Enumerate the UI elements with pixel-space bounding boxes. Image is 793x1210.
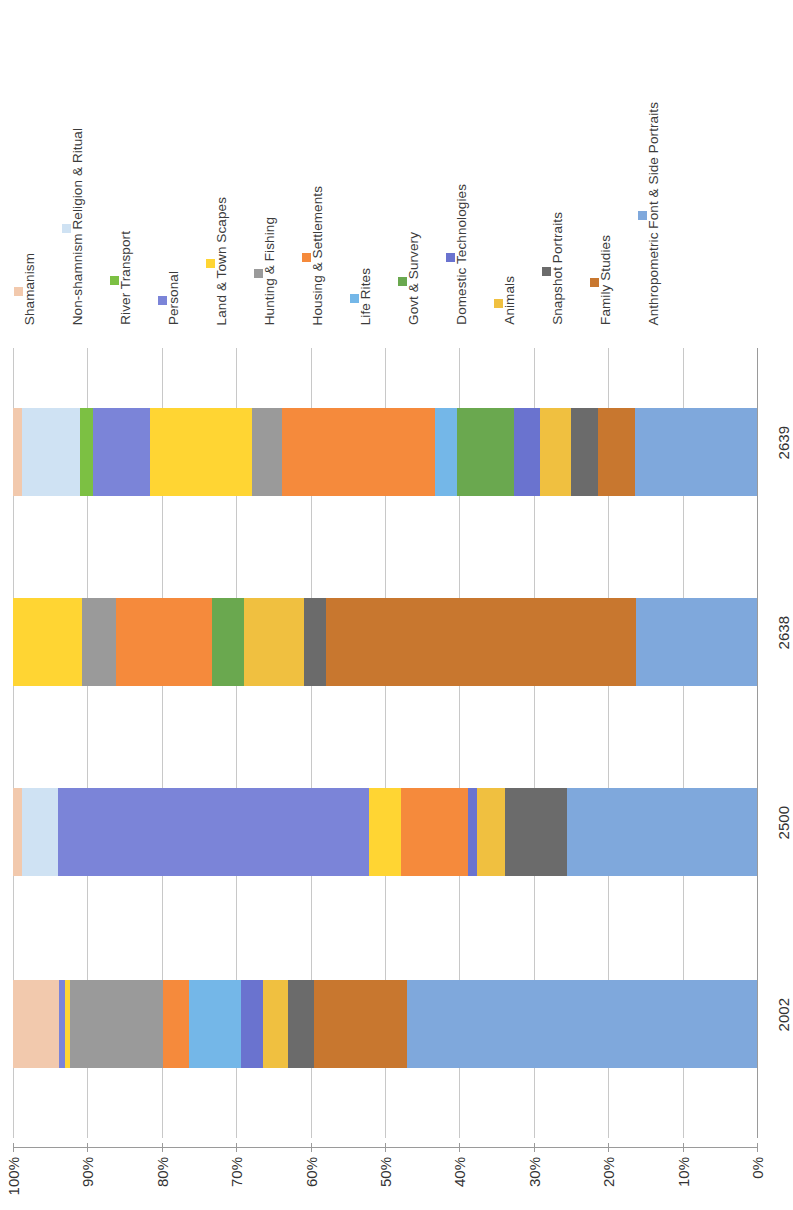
bar-segment[interactable] xyxy=(13,598,82,686)
axis-tick-label: 40% xyxy=(451,1157,468,1187)
bar-segment[interactable] xyxy=(567,788,757,876)
bar-segment[interactable] xyxy=(252,408,282,496)
bar-segment[interactable] xyxy=(241,980,263,1068)
legend-item[interactable]: Anthropometric Font & Side Portraits xyxy=(638,102,661,330)
bar-segment[interactable] xyxy=(401,788,468,876)
bar-segment[interactable] xyxy=(304,598,326,686)
bar-segment[interactable] xyxy=(288,980,313,1068)
bar-segment[interactable] xyxy=(263,980,288,1068)
legend-item[interactable]: Housing & Settlements xyxy=(302,186,325,330)
axis-tick xyxy=(459,1143,460,1152)
axis-tick xyxy=(683,1143,684,1152)
legend-label: Govt & Survery xyxy=(407,232,421,325)
chart-page: ShamanismNon-shamnism Religion & RitualR… xyxy=(0,0,793,1210)
legend-label: Domestic Technologies xyxy=(455,184,469,325)
category-label: 2639 xyxy=(775,426,793,459)
bar-row xyxy=(13,980,757,1068)
legend-item[interactable]: Land & Town Scapes xyxy=(206,197,229,330)
axis-tick xyxy=(757,1143,758,1152)
axis-tick xyxy=(87,1143,88,1152)
legend-label: Snapshot Portraits xyxy=(551,212,565,325)
bar-segment[interactable] xyxy=(13,980,59,1068)
axis-tick-label: 10% xyxy=(675,1157,692,1187)
bar-segment[interactable] xyxy=(635,408,757,496)
axis-tick-label: 90% xyxy=(79,1157,96,1187)
axis-tick xyxy=(13,1143,14,1152)
axis-tick xyxy=(534,1143,535,1152)
legend-label: Non-shamnism Religion & Ritual xyxy=(71,128,85,325)
bar-segment[interactable] xyxy=(58,788,370,876)
bar-segment[interactable] xyxy=(212,598,243,686)
bar-row xyxy=(13,408,757,496)
legend-item[interactable]: Govt & Survery xyxy=(398,232,421,330)
legend-label: River Transport xyxy=(119,231,133,325)
bar-segment[interactable] xyxy=(189,980,240,1068)
legend-item[interactable]: Animals xyxy=(494,276,517,330)
bar-segment[interactable] xyxy=(282,408,435,496)
stacked-bar[interactable] xyxy=(13,598,757,686)
axis-baseline xyxy=(757,348,758,1138)
axis-tick-label: 0% xyxy=(749,1157,766,1179)
chart-legend: ShamanismNon-shamnism Religion & RitualR… xyxy=(0,0,793,330)
bar-segment[interactable] xyxy=(435,408,457,496)
bar-segment[interactable] xyxy=(150,408,252,496)
bar-row xyxy=(13,788,757,876)
bar-segment[interactable] xyxy=(636,598,757,686)
bar-segment[interactable] xyxy=(540,408,571,496)
legend-item[interactable]: Non-shamnism Religion & Ritual xyxy=(62,128,85,330)
legend-item[interactable]: Domestic Technologies xyxy=(446,184,469,330)
legend-item[interactable]: Hunting & Fishing xyxy=(254,217,277,330)
bar-segment[interactable] xyxy=(407,980,757,1068)
bar-segment[interactable] xyxy=(457,408,514,496)
bar-segment[interactable] xyxy=(514,408,539,496)
bar-segment[interactable] xyxy=(70,980,162,1068)
legend-item[interactable]: River Transport xyxy=(110,231,133,330)
axis-tick-label: 100% xyxy=(5,1157,22,1195)
legend-label: Personal xyxy=(167,271,181,325)
plot-inner: 2639263825002002 xyxy=(13,348,757,1138)
legend-label: Land & Town Scapes xyxy=(215,197,229,325)
legend-item[interactable]: Shamanism xyxy=(14,253,37,330)
legend-label: Housing & Settlements xyxy=(311,186,325,325)
category-label: 2002 xyxy=(775,998,793,1031)
bar-segment[interactable] xyxy=(369,788,401,876)
stacked-bar[interactable] xyxy=(13,408,757,496)
legend-label: Life Rites xyxy=(359,268,373,325)
bar-segment[interactable] xyxy=(326,598,636,686)
bar-segment[interactable] xyxy=(82,598,116,686)
bar-segment[interactable] xyxy=(571,408,598,496)
bar-segment[interactable] xyxy=(22,788,58,876)
bar-segment[interactable] xyxy=(116,598,212,686)
legend-item[interactable]: Life Rites xyxy=(350,268,373,330)
legend-label: Anthropometric Font & Side Portraits xyxy=(647,102,661,325)
bar-segment[interactable] xyxy=(314,980,407,1068)
bar-segment[interactable] xyxy=(93,408,150,496)
legend-item[interactable]: Personal xyxy=(158,271,181,330)
bar-segment[interactable] xyxy=(163,980,190,1068)
bar-segment[interactable] xyxy=(13,408,22,496)
plot-area: 2639263825002002 xyxy=(0,338,793,1148)
axis-tick-label: 60% xyxy=(303,1157,320,1187)
legend-item[interactable]: Family Studies xyxy=(590,235,613,330)
legend-label: Family Studies xyxy=(599,235,613,325)
bar-segment[interactable] xyxy=(13,788,22,876)
stacked-bar[interactable] xyxy=(13,980,757,1068)
axis-tick-label: 70% xyxy=(228,1157,245,1187)
axis-tick xyxy=(608,1143,609,1152)
legend-item[interactable]: Snapshot Portraits xyxy=(542,212,565,330)
bar-segment[interactable] xyxy=(477,788,505,876)
axis-tick xyxy=(311,1143,312,1152)
bar-segment[interactable] xyxy=(598,408,635,496)
axis-tick xyxy=(385,1143,386,1152)
stacked-bar[interactable] xyxy=(13,788,757,876)
bar-segment[interactable] xyxy=(468,788,477,876)
axis-tick-label: 30% xyxy=(526,1157,543,1187)
axis-tick xyxy=(236,1143,237,1152)
axis-tick-label: 50% xyxy=(377,1157,394,1187)
bar-segment[interactable] xyxy=(22,408,80,496)
bar-segment[interactable] xyxy=(244,598,304,686)
bar-segment[interactable] xyxy=(80,408,93,496)
bar-segment[interactable] xyxy=(505,788,567,876)
legend-label: Animals xyxy=(503,276,517,325)
axis-tick xyxy=(162,1143,163,1152)
